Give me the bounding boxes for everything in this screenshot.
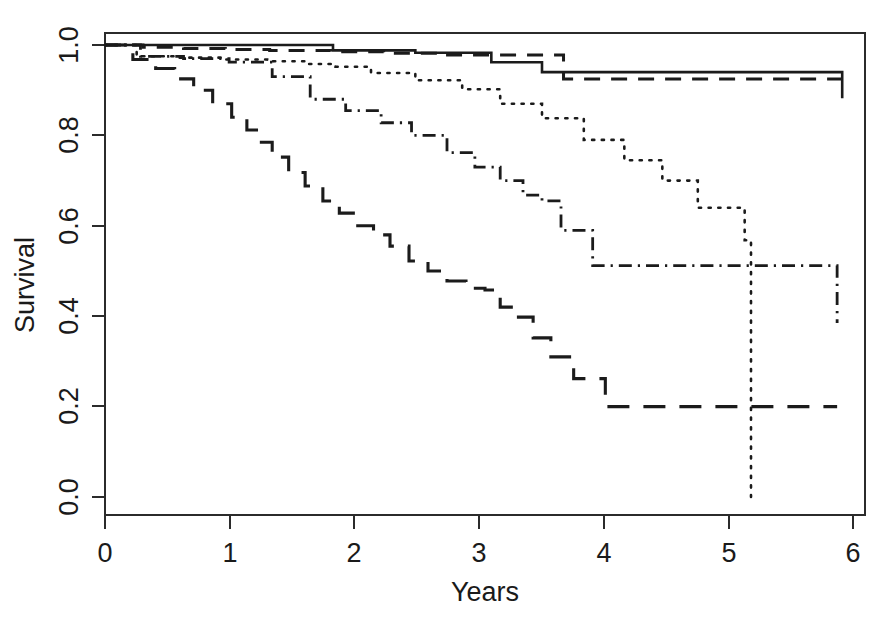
y-tick-label-0.2: 0.2 [54, 387, 84, 425]
survival-plot-figure: 1.0 0.8 0.6 0.4 0.2 0.0 Survival 0 1 2 3… [0, 0, 895, 618]
chart-canvas: 1.0 0.8 0.6 0.4 0.2 0.0 Survival 0 1 2 3… [0, 0, 895, 618]
x-axis-ticks [105, 515, 853, 529]
x-tick-label-4: 4 [596, 538, 611, 568]
y-tick-label-0.6: 0.6 [54, 207, 84, 245]
x-axis-title: Years [451, 577, 519, 607]
y-tick-label-1.0: 1.0 [54, 26, 84, 64]
y-tick-label-0.0: 0.0 [54, 478, 84, 516]
y-axis-tick-labels: 1.0 0.8 0.6 0.4 0.2 0.0 [54, 26, 84, 516]
km-curve-group-1 [105, 45, 842, 98]
x-axis-tick-labels: 0 1 2 3 4 5 6 [97, 538, 860, 568]
y-axis-title: Survival [10, 237, 40, 333]
y-tick-label-0.4: 0.4 [54, 297, 84, 335]
km-curve-group-4 [105, 45, 837, 323]
x-tick-label-6: 6 [845, 538, 860, 568]
x-tick-label-1: 1 [222, 538, 237, 568]
y-tick-label-0.8: 0.8 [54, 116, 84, 154]
x-tick-label-3: 3 [471, 538, 486, 568]
km-curve-group-5 [105, 45, 837, 407]
y-axis-ticks [92, 45, 105, 497]
km-curves-group [105, 45, 842, 497]
x-tick-label-0: 0 [97, 538, 112, 568]
km-curve-group-2 [105, 45, 842, 79]
x-tick-label-5: 5 [721, 538, 736, 568]
x-tick-label-2: 2 [346, 538, 361, 568]
